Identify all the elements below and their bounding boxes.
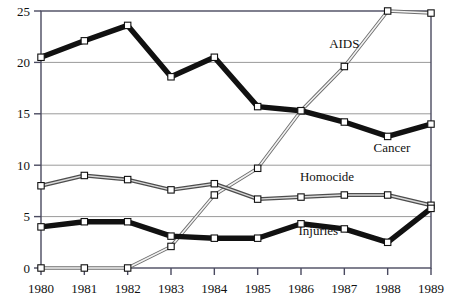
series-cancer [38,22,434,139]
x-tick-label-1985: 1985 [245,281,271,296]
x-tick-label-1986: 1986 [288,281,315,296]
data-point-homocide-1981[interactable] [81,172,87,178]
data-point-aids-1980[interactable] [38,265,44,271]
series-line-highlight-aids [41,11,431,268]
line-chart: 0510152025198019811982198319841985198619… [0,0,455,300]
data-point-homocide-1988[interactable] [384,192,390,198]
series-label-cancer: Cancer [374,140,411,155]
data-point-injuries-1987[interactable] [341,226,347,232]
series-line-injuries [41,208,431,242]
data-point-injuries-1989[interactable] [428,205,434,211]
data-point-aids-1981[interactable] [81,265,87,271]
x-tick-label-1987: 1987 [331,281,358,296]
x-tick-label-1983: 1983 [158,281,184,296]
series-homocide [38,172,434,208]
data-point-homocide-1984[interactable] [211,181,217,187]
data-point-homocide-1987[interactable] [341,192,347,198]
data-point-homocide-1982[interactable] [124,176,130,182]
data-point-injuries-1984[interactable] [211,235,217,241]
data-point-aids-1989[interactable] [428,10,434,16]
data-point-cancer-1981[interactable] [81,38,87,44]
x-tick-label-1984: 1984 [201,281,228,296]
y-axis: 0510152025 [17,4,41,276]
chart-container: 0510152025198019811982198319841985198619… [0,0,455,300]
y-tick-label-25: 25 [17,4,30,19]
data-point-cancer-1985[interactable] [254,103,260,109]
data-point-aids-1982[interactable] [124,265,130,271]
y-tick-label-5: 5 [24,209,31,224]
data-point-homocide-1985[interactable] [254,196,260,202]
series-label-injuries: Injuries [298,223,338,238]
data-point-homocide-1986[interactable] [298,194,304,200]
y-tick-label-20: 20 [17,55,30,70]
data-point-injuries-1980[interactable] [38,224,44,230]
axes [41,11,431,268]
series-label-aids: AIDS [329,36,359,51]
x-tick-label-1989: 1989 [418,281,444,296]
series-injuries [38,205,434,245]
x-tick-label-1988: 1988 [375,281,401,296]
data-point-cancer-1980[interactable] [38,54,44,60]
data-point-injuries-1988[interactable] [384,239,390,245]
plot-frame [41,11,431,268]
x-tick-label-1980: 1980 [28,281,54,296]
data-point-aids-1987[interactable] [341,63,347,69]
y-tick-label-15: 15 [17,106,30,121]
data-point-cancer-1989[interactable] [428,121,434,127]
data-point-injuries-1981[interactable] [81,219,87,225]
data-point-homocide-1980[interactable] [38,183,44,189]
x-tick-label-1982: 1982 [115,281,141,296]
data-point-cancer-1987[interactable] [341,119,347,125]
data-point-injuries-1985[interactable] [254,235,260,241]
series-line-cancer [41,25,431,136]
data-point-injuries-1983[interactable] [168,233,174,239]
x-axis: 1980198119821983198419851986198719881989 [28,268,444,296]
y-tick-label-10: 10 [17,158,30,173]
data-point-cancer-1984[interactable] [211,54,217,60]
data-point-aids-1983[interactable] [168,243,174,249]
series-label-homocide: Homocide [300,169,354,184]
data-point-cancer-1983[interactable] [168,74,174,80]
data-point-aids-1984[interactable] [211,192,217,198]
data-point-cancer-1988[interactable] [384,133,390,139]
series-line-aids [41,11,431,268]
data-point-aids-1985[interactable] [254,165,260,171]
data-point-injuries-1982[interactable] [124,219,130,225]
data-point-aids-1986[interactable] [298,108,304,114]
x-tick-label-1981: 1981 [71,281,97,296]
y-tick-label-0: 0 [24,261,31,276]
data-point-aids-1988[interactable] [384,8,390,14]
data-point-homocide-1983[interactable] [168,187,174,193]
data-point-cancer-1982[interactable] [124,22,130,28]
